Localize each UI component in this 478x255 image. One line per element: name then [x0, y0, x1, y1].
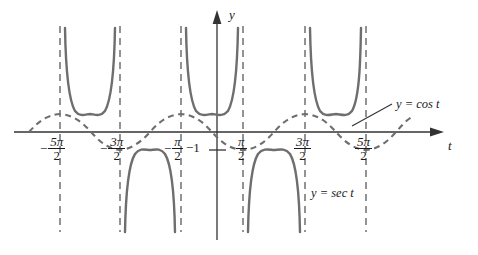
tick-fraction-neg-5pi-2: 5π 2 [48, 135, 65, 163]
tick-denominator-pos-5pi-2: 2 [355, 149, 372, 162]
tick-denominator-neg-3pi-2: 2 [108, 149, 125, 162]
tick-label-pos-5pi-2: 5π 2 [355, 135, 372, 163]
tick-denominator-pos-pi-2: 2 [236, 149, 247, 162]
cosine-label-leader-line [352, 104, 392, 126]
tick-label-neg-5pi-2: − 5π 2 [40, 135, 65, 163]
tick-numerator-pos-3pi-2: 3π [294, 135, 311, 149]
tick-numerator-pos-pi-2: π [236, 135, 247, 149]
axes [14, 10, 444, 240]
tick-numerator-neg-3pi-2: 3π [108, 135, 125, 149]
tick-label-neg-pi-2: − π 2 [164, 135, 183, 163]
tick-fraction-pos-pi-2: π 2 [236, 135, 247, 163]
graph-canvas [0, 0, 478, 255]
y-axis-arrowhead [213, 10, 222, 24]
tick-fraction-pos-5pi-2: 5π 2 [355, 135, 372, 163]
tick-fraction-neg-pi-2: π 2 [172, 135, 183, 163]
secant-cosine-graph-figure: y t −1 − 5π 2 − 3π 2 − π 2 π 2 3π 2 [0, 0, 478, 255]
y-axis-label: y [229, 8, 235, 21]
secant-branch-3-up [186, 28, 238, 115]
tick-denominator-pos-3pi-2: 2 [294, 149, 311, 162]
tick-sign-neg-5pi-2: − [40, 142, 48, 155]
secant-branch-1-up [65, 28, 115, 115]
tick-denominator-neg-5pi-2: 2 [48, 149, 65, 162]
tick-denominator-neg-pi-2: 2 [172, 149, 183, 162]
tick-sign-neg-3pi-2: − [100, 142, 108, 155]
tick-sign-neg-pi-2: − [164, 142, 172, 155]
tick-fraction-neg-3pi-2: 3π 2 [108, 135, 125, 163]
tick-numerator-neg-5pi-2: 5π [48, 135, 65, 149]
tick-label-neg-3pi-2: − 3π 2 [100, 135, 125, 163]
leader-line-segment [352, 104, 392, 126]
tick-numerator-neg-pi-2: π [172, 135, 183, 149]
secant-branch-4-down [248, 149, 300, 232]
secant-branch-5-up [310, 28, 361, 115]
t-axis-arrowhead [430, 128, 444, 137]
secant-curve-label: y = sec t [311, 187, 354, 200]
cosine-curve-label: y = cos t [396, 98, 440, 111]
y-tick-label-neg-1: −1 [186, 141, 200, 154]
tick-label-pos-pi-2: π 2 [236, 135, 247, 163]
tick-label-pos-3pi-2: 3π 2 [294, 135, 311, 163]
asymptote-lines [60, 26, 366, 232]
secant-curve [65, 28, 361, 232]
t-axis-label: t [448, 139, 452, 152]
tick-numerator-pos-5pi-2: 5π [355, 135, 372, 149]
tick-fraction-pos-3pi-2: 3π 2 [294, 135, 311, 163]
